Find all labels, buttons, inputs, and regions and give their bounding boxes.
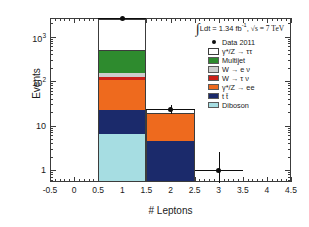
legend-entry[interactable]: Diboson [208,101,304,110]
x-tick-minor-top [248,18,249,21]
x-tick-minor [224,179,225,182]
x-tick-minor-top [161,18,162,21]
y-tick-minor [50,88,53,89]
x-tick-major [267,177,268,182]
x-tick-minor-top [262,18,263,21]
y-tick-minor [50,91,53,92]
x-tick-minor [199,179,200,182]
x-tick-minor-top [272,18,273,21]
y-tick-minor [50,68,53,69]
y-tick-minor [50,99,53,100]
x-tick-major [195,177,196,182]
x-tick-minor-top [233,18,234,21]
y-tick-minor-right [288,180,291,181]
y-tick-major [50,81,56,82]
y-tick-label: 103 [18,32,46,44]
x-tick-minor [252,179,253,182]
y-tick-minor [50,83,53,84]
x-tick-label: 4.5 [275,185,307,195]
x-tick-minor-top [286,18,287,21]
y-tick-minor-right [288,112,291,113]
y-tick-minor [50,94,53,95]
legend: Data 2011γ*/Z → ττMultijetW → e νW → τ ν… [208,38,304,110]
legend-swatch-icon [208,48,219,55]
legend-swatch-icon [208,75,219,82]
y-tick-minor-right [288,157,291,158]
x-axis-title: # Leptons [50,205,291,216]
y-tick-minor [50,139,53,140]
legend-label: Data 2011 [222,38,255,47]
legend-label: t t̄ [222,92,228,101]
sqrt-s-text: √s = 7 TeV [251,24,284,33]
y-tick-minor-right [288,174,291,175]
y-tick-minor [50,112,53,113]
y-tick-minor-right [288,132,291,133]
x-tick-minor-top [151,18,152,21]
legend-entry[interactable]: γ*/Z → ee [208,83,304,92]
x-tick-major [74,177,75,182]
stacked-bar-outline [146,109,194,182]
x-tick-minor [55,179,56,182]
chart-figure: Events # Leptons 103102101 -0.500.511.52… [0,0,309,227]
y-tick-label: 1 [18,165,46,175]
x-tick-minor [89,179,90,182]
y-tick-minor-right [288,172,291,173]
y-tick-minor [50,43,53,44]
x-tick-minor-top [93,18,94,21]
y-tick-minor [50,60,53,61]
legend-entry[interactable]: W → e ν [208,65,304,74]
x-tick-minor-top [89,18,90,21]
x-tick-major-top [291,18,292,23]
x-tick-minor-top [175,18,176,21]
x-tick-minor-top [64,18,65,21]
x-tick-minor [233,179,234,182]
x-tick-minor-top [238,18,239,21]
x-tick-minor [84,179,85,182]
legend-data-marker-icon [208,39,219,46]
legend-entry[interactable]: W → τ ν [208,74,304,83]
x-tick-minor-top [209,18,210,21]
data-point-marker [120,16,125,21]
data-point-marker [216,168,221,173]
y-tick-major-right [285,170,291,171]
x-tick-minor-top [281,18,282,21]
x-tick-minor-top [156,18,157,21]
y-tick-minor [50,104,53,105]
legend-entry[interactable]: t t̄ [208,92,304,101]
y-tick-minor [50,41,53,42]
y-tick-minor [50,39,53,40]
legend-swatch-icon [208,93,219,100]
y-tick-minor [50,174,53,175]
legend-label: Diboson [222,101,249,110]
legend-swatch-icon [208,57,219,64]
y-tick-minor [50,54,53,55]
x-tick-minor [60,179,61,182]
legend-entry[interactable]: Multijet [208,56,304,65]
y-tick-minor [50,180,53,181]
x-tick-minor-top [214,18,215,21]
x-tick-minor [69,179,70,182]
y-tick-minor-right [288,177,291,178]
data-point-marker [168,107,173,112]
legend-entry[interactable]: γ*/Z → ττ [208,47,304,56]
y-tick-minor [50,85,53,86]
y-tick-minor [50,135,53,136]
y-tick-minor-right [288,139,291,140]
x-tick-minor-top [190,18,191,21]
legend-swatch-icon [208,84,219,91]
x-tick-major [243,177,244,182]
legend-label: Multijet [222,56,245,65]
y-tick-minor [50,23,53,24]
legend-label: W → e ν [222,65,250,74]
x-tick-minor-top [257,18,258,21]
x-tick-major-top [146,18,147,23]
x-tick-major-top [171,18,172,23]
y-tick-minor [50,157,53,158]
x-tick-minor-top [180,18,181,21]
x-tick-minor [209,179,210,182]
y-tick-minor [50,46,53,47]
legend-entry[interactable]: Data 2011 [208,38,304,47]
x-tick-major-top [74,18,75,23]
y-tick-major [50,37,56,38]
lumi-text: Ldt = 1.34 fb [200,24,242,33]
